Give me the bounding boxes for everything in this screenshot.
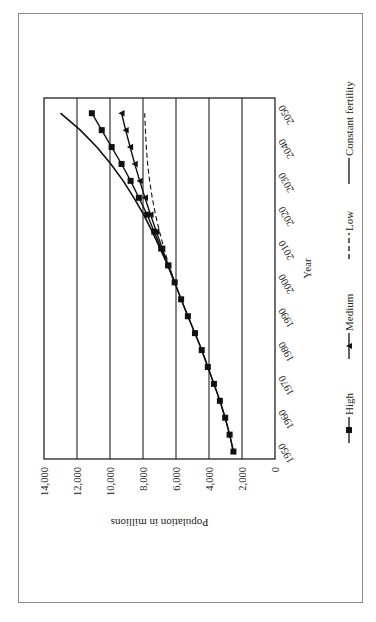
plot-frame [44, 98, 275, 459]
x-axis-ticks: 1950196019701980199020002010202020302040… [276, 103, 296, 465]
series-low [145, 113, 175, 282]
y-axis-ticks: 02,0004,0006,0008,00010,00012,00014,000 [39, 467, 281, 496]
square-marker-icon [346, 427, 352, 433]
square-marker [109, 144, 115, 150]
legend-item-low: Low [343, 211, 355, 259]
y-tick-label: 4,000 [204, 467, 215, 491]
legend: HighMediumLowConstant fertility [343, 81, 355, 443]
y-tick-label: 10,000 [105, 467, 116, 496]
x-tick-label: 2000 [276, 272, 296, 296]
y-tick-label: 6,000 [171, 467, 182, 491]
x-tick-label: 2050 [276, 103, 296, 127]
y-tick-label: 12,000 [72, 467, 83, 496]
series-constant-fertility [61, 113, 175, 282]
x-tick-label: 1970 [276, 374, 296, 398]
x-tick-label: 1950 [276, 441, 296, 465]
population-chart: 02,0004,0006,0008,00010,00012,00014,000 … [0, 0, 376, 622]
x-axis-title: Year [301, 258, 313, 279]
x-tick-label: 2030 [276, 171, 296, 195]
series-line [145, 113, 175, 282]
square-marker [136, 195, 142, 201]
x-tick-label: 2040 [276, 137, 296, 161]
legend-label: Medium [343, 293, 355, 331]
series-line [61, 113, 175, 282]
square-marker [128, 178, 134, 184]
legend-item-high: High [343, 393, 355, 444]
legend-label: High [343, 393, 355, 416]
rotated-chart-group: 02,0004,0006,0008,00010,00012,00014,000 … [39, 81, 356, 529]
x-tick-label: 1980 [276, 340, 296, 364]
legend-item-constant-fertility: Constant fertility [343, 81, 355, 184]
x-tick-label: 1990 [276, 306, 296, 330]
series-high [89, 110, 237, 454]
x-tick-label: 2020 [276, 205, 296, 229]
legend-label: Low [343, 211, 355, 231]
legend-item-medium: Medium [343, 293, 355, 359]
series-lines [61, 110, 237, 455]
x-tick-label: 2010 [276, 238, 296, 262]
y-tick-label: 2,000 [237, 467, 248, 491]
y-tick-label: 0 [270, 467, 281, 472]
y-tick-label: 14,000 [39, 467, 50, 496]
legend-label: Constant fertility [343, 81, 355, 156]
x-tick-label: 1960 [276, 408, 296, 432]
square-marker [119, 161, 125, 167]
series-line [92, 113, 234, 451]
y-axis-title: Population in millions [111, 517, 209, 529]
square-marker [89, 110, 95, 116]
square-marker [99, 127, 105, 133]
y-tick-label: 8,000 [138, 467, 149, 491]
